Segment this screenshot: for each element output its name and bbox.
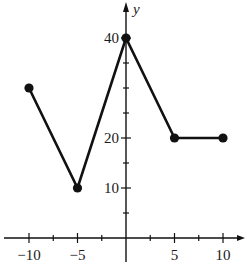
y-axis-arrow-icon	[123, 2, 129, 12]
y-tick-label: 40	[104, 30, 119, 46]
data-point-marker	[73, 183, 82, 192]
x-axis-arrow-icon	[237, 235, 245, 241]
x-tick-label: −5	[70, 247, 86, 263]
x-tick-label: 5	[171, 247, 179, 263]
data-point-marker	[218, 133, 227, 142]
x-tick-label: −10	[17, 247, 40, 263]
x-tick-label: 10	[216, 247, 231, 263]
y-tick-label: 10	[104, 180, 119, 196]
data-point-marker	[170, 133, 179, 142]
tick-labels: −10−5510102040	[17, 30, 230, 263]
y-axis-label: y	[131, 1, 140, 17]
line-chart: −10−5510102040 y	[0, 0, 245, 270]
y-tick-label: 20	[104, 130, 119, 146]
data-point-marker	[121, 33, 130, 42]
data-point-marker	[24, 83, 33, 92]
